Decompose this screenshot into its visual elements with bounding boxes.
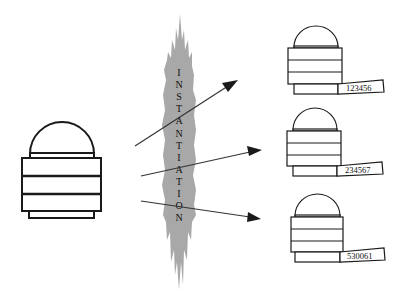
burst-letter: S <box>176 91 182 102</box>
dome-shape <box>30 122 94 154</box>
burst-letter: N <box>175 128 182 139</box>
burst-letter: A <box>175 164 183 175</box>
instance-object-3: 530061 <box>291 194 385 262</box>
arrow-2 <box>141 146 262 176</box>
instance-object-1: 123456 <box>288 26 384 94</box>
instance-object-2: 234567 <box>287 108 383 176</box>
burst-letter: I <box>177 152 180 163</box>
instance-id-label: 530061 <box>347 251 373 261</box>
instantiation-diagram: INSTANTIATION 123456 <box>0 0 405 295</box>
burst-letter: I <box>177 188 180 199</box>
burst-letter: T <box>176 103 182 114</box>
burst-letter: T <box>176 176 182 187</box>
burst-letter: T <box>176 140 182 151</box>
burst-letter: I <box>177 67 180 78</box>
source-object <box>22 122 101 218</box>
burst-letter: N <box>175 79 182 90</box>
instance-id-label: 234567 <box>345 165 371 175</box>
arrow-3 <box>141 201 261 222</box>
instance-id-label: 123456 <box>346 83 372 93</box>
burst-letter: N <box>175 212 182 223</box>
base <box>29 211 94 218</box>
body <box>22 158 101 211</box>
